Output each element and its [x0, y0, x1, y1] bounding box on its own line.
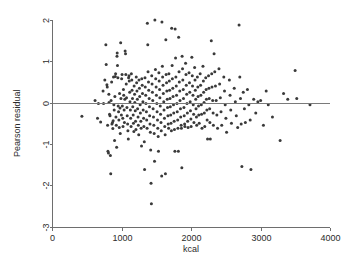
x-tick-label: 3000 — [251, 233, 271, 243]
data-point — [116, 76, 119, 79]
data-point — [192, 121, 195, 124]
data-point — [156, 127, 159, 130]
y-tick-label: 1 — [41, 59, 51, 64]
data-point — [179, 116, 182, 119]
data-point — [202, 91, 205, 94]
data-point — [155, 85, 158, 88]
data-point — [106, 85, 109, 88]
data-point — [164, 38, 167, 41]
data-point — [240, 165, 243, 168]
data-point — [179, 107, 182, 110]
data-point — [147, 70, 150, 73]
data-point — [191, 74, 194, 77]
data-point — [126, 129, 129, 132]
data-point — [240, 123, 243, 126]
data-point — [129, 117, 132, 120]
data-point — [170, 129, 173, 132]
data-point — [107, 93, 110, 96]
data-point — [130, 125, 133, 128]
data-point — [192, 113, 195, 116]
data-point — [120, 77, 123, 80]
data-point — [145, 110, 148, 113]
data-point — [238, 75, 241, 78]
data-point — [197, 113, 200, 116]
data-point — [208, 107, 211, 110]
data-point — [189, 118, 192, 121]
x-tick-label: 0 — [50, 233, 55, 243]
data-point — [123, 109, 126, 112]
data-point — [211, 99, 214, 102]
data-point — [182, 97, 185, 100]
data-point — [139, 111, 142, 114]
data-point — [228, 78, 231, 81]
data-point — [131, 89, 134, 92]
data-point — [165, 90, 168, 93]
data-point — [94, 99, 97, 102]
plot-canvas: 210-1-2-301000200030004000 Pearson resid… — [0, 0, 360, 270]
data-point — [153, 160, 156, 163]
y-axis-title: Pearson residual — [12, 89, 22, 157]
data-point — [213, 52, 216, 55]
data-point — [157, 135, 160, 138]
data-point — [233, 87, 236, 90]
data-point — [184, 62, 187, 65]
data-point — [179, 99, 182, 102]
data-point — [128, 74, 131, 77]
data-point — [157, 71, 160, 74]
data-point — [210, 85, 213, 88]
data-point — [187, 126, 190, 129]
data-point — [135, 81, 138, 84]
data-point — [218, 83, 221, 86]
data-point — [124, 52, 127, 55]
data-point — [118, 126, 121, 129]
data-point — [130, 72, 133, 75]
data-point — [134, 109, 137, 112]
data-point — [113, 109, 116, 112]
data-point — [189, 100, 192, 103]
data-point — [164, 172, 167, 175]
data-point — [194, 78, 197, 81]
data-point — [161, 75, 164, 78]
data-point — [116, 52, 119, 55]
data-point — [128, 91, 131, 94]
data-point — [152, 124, 155, 127]
data-point — [104, 43, 107, 46]
data-point — [153, 19, 156, 22]
data-point — [146, 127, 149, 130]
data-point — [195, 116, 198, 119]
scatter-plot-figure: 210-1-2-301000200030004000 Pearson resid… — [0, 0, 360, 270]
data-point — [215, 99, 218, 102]
data-point — [286, 98, 289, 101]
data-point — [163, 109, 166, 112]
data-point — [142, 109, 145, 112]
x-tick-label: 2000 — [181, 233, 201, 243]
data-point — [200, 127, 203, 130]
data-point — [143, 168, 146, 171]
data-point — [96, 117, 99, 120]
data-point — [159, 121, 162, 124]
data-point — [133, 85, 136, 88]
data-point — [199, 72, 202, 75]
data-point — [183, 114, 186, 117]
data-point — [212, 111, 215, 114]
data-point — [110, 80, 113, 83]
data-point — [249, 118, 252, 121]
data-point — [102, 90, 105, 93]
plot-background — [0, 0, 360, 270]
data-point — [181, 78, 184, 81]
data-point — [265, 90, 268, 93]
data-point — [109, 172, 112, 175]
data-point — [160, 21, 163, 24]
data-point — [121, 117, 124, 120]
data-point — [113, 95, 116, 98]
data-point — [203, 111, 206, 114]
data-point — [130, 78, 133, 81]
data-point — [209, 137, 212, 140]
data-point — [295, 97, 298, 100]
data-point — [197, 104, 200, 107]
data-point — [175, 94, 178, 97]
data-point — [214, 85, 217, 88]
data-point — [254, 111, 257, 114]
data-point — [162, 84, 165, 87]
data-point — [294, 69, 297, 72]
